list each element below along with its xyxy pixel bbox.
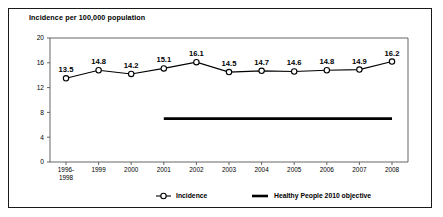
x-tick-label: 2006 [320,166,335,173]
x-tick-label: 2003 [222,166,237,173]
x-axis-ticks: 1996-19981999200020012002200320042005200… [58,162,400,181]
y-tick-label: 20 [37,34,45,41]
incidence-data-point [292,69,297,74]
x-tick-label: 2002 [189,166,204,173]
data-point-label: 14.9 [352,57,367,66]
data-point-label: 16.2 [385,49,400,58]
incidence-data-point [324,68,329,73]
x-tick-label: 2008 [385,166,400,173]
incidence-data-point [259,68,264,73]
data-point-label: 14.2 [124,61,139,70]
y-tick-label: 16 [37,59,45,66]
y-tick-label: 0 [40,158,44,165]
x-tick-label: 1999 [91,166,106,173]
data-point-label: 14.8 [319,57,334,66]
y-axis-ticks: 048121620 [37,34,50,165]
legend-label-objective: Healthy People 2010 objective [274,192,371,200]
x-tick-label: 2007 [352,166,367,173]
x-tick-label: 2004 [254,166,269,173]
legend-label-incidence: Incidence [176,192,208,199]
incidence-data-point [226,69,231,74]
data-point-label: 16.1 [189,49,205,58]
x-tick-label: 2005 [287,166,302,173]
incidence-data-point [129,71,134,76]
y-tick-label: 8 [40,109,44,116]
data-point-label: 14.5 [222,59,238,68]
y-tick-label: 4 [40,134,44,141]
data-point-label: 15.1 [156,55,172,64]
data-point-label: 13.5 [59,65,75,74]
x-tick-label: 2001 [157,166,172,173]
data-point-label: 14.6 [287,58,302,67]
incidence-data-point [389,59,394,64]
y-tick-label: 12 [37,84,45,91]
chart-plot: 048121620 1996-1998199920002001200220032… [0,0,443,217]
data-point-label: 14.7 [254,58,269,67]
x-tick-label: 2000 [124,166,139,173]
incidence-data-point [63,76,68,81]
legend-incidence-marker-icon [161,193,166,198]
chart-figure: Incidence per 100,000 population 0481216… [0,0,443,217]
chart-legend: IncidenceHealthy People 2010 objective [156,192,371,200]
incidence-data-point [194,59,199,64]
x-tick-label: 1996-1998 [58,166,74,181]
incidence-data-point [161,66,166,71]
data-point-label: 14.8 [91,57,106,66]
incidence-data-point [96,68,101,73]
incidence-data-point [357,67,362,72]
